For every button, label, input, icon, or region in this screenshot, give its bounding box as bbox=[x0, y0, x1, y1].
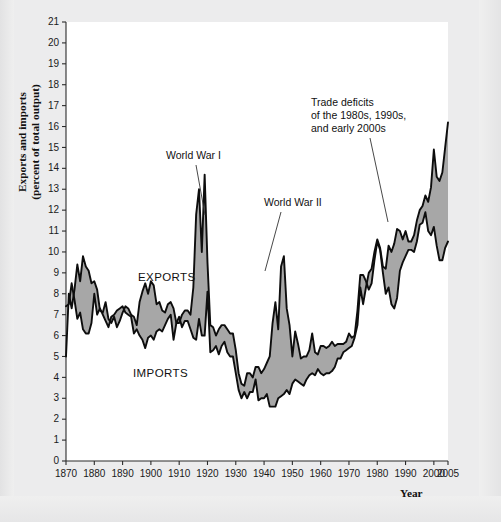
y-tick-label: 11 bbox=[49, 225, 60, 236]
y-tick-label: 2 bbox=[53, 413, 59, 424]
y-tick-label: 1 bbox=[53, 434, 59, 445]
y-tick-label: 21 bbox=[48, 16, 60, 27]
data-group bbox=[66, 122, 448, 406]
y-tick-label: 4 bbox=[53, 372, 59, 383]
x-tick-label: 1880 bbox=[83, 468, 106, 479]
y-tick-label: 12 bbox=[48, 204, 60, 215]
leader-trade-deficits bbox=[370, 138, 388, 222]
x-tick-label: 1910 bbox=[168, 468, 191, 479]
x-tick-label: 1980 bbox=[366, 468, 389, 479]
annotation-trade-deficits-line2: of the 1980s, 1990s, bbox=[311, 109, 406, 121]
y-tick-label: 15 bbox=[48, 142, 60, 153]
x-tick-label: 1930 bbox=[225, 468, 248, 479]
y-tick-label: 17 bbox=[48, 100, 60, 111]
x-tick-label: 1900 bbox=[140, 468, 163, 479]
y-tick-label: 19 bbox=[48, 58, 60, 69]
annotation-world-war-i: World War I bbox=[166, 149, 221, 161]
y-tick-label: 7 bbox=[53, 309, 59, 320]
y-tick-label: 16 bbox=[48, 121, 60, 132]
x-tick-label: 1990 bbox=[394, 468, 417, 479]
y-tick-label: 13 bbox=[48, 183, 60, 194]
y-tick-label: 5 bbox=[53, 351, 59, 362]
x-tick-label: 1970 bbox=[338, 468, 361, 479]
x-tick-label: 1960 bbox=[310, 468, 333, 479]
y-tick-label: 14 bbox=[48, 162, 60, 173]
x-tick-label: 1950 bbox=[281, 468, 304, 479]
chart-canvas: 0123456789101112131415161718192021187018… bbox=[0, 0, 501, 522]
y-tick-label: 20 bbox=[48, 37, 60, 48]
x-tick-label: 2005 bbox=[437, 468, 460, 479]
exports-series-label: EXPORTS bbox=[138, 271, 196, 283]
annotation-world-war-ii: World War II bbox=[264, 196, 322, 208]
y-tick-label: 18 bbox=[48, 79, 60, 90]
exports-imports-band bbox=[66, 122, 448, 406]
x-tick-label: 1920 bbox=[196, 468, 219, 479]
annotation-trade-deficits-line3: and early 2000s bbox=[311, 122, 386, 134]
x-tick-label: 1940 bbox=[253, 468, 276, 479]
y-tick-label: 6 bbox=[53, 330, 59, 341]
x-tick-label: 1870 bbox=[55, 468, 78, 479]
chart-page: Exports and imports (percent of total ou… bbox=[0, 0, 501, 522]
leader-world-war-ii bbox=[265, 212, 281, 271]
y-tick-label: 10 bbox=[48, 246, 60, 257]
y-tick-label: 0 bbox=[53, 455, 59, 466]
imports-series-label: IMPORTS bbox=[133, 367, 188, 379]
y-tick-label: 3 bbox=[53, 392, 59, 403]
y-tick-label: 8 bbox=[53, 288, 59, 299]
x-tick-label: 1890 bbox=[111, 468, 134, 479]
annotation-trade-deficits-line1: Trade deficits bbox=[311, 96, 374, 108]
y-tick-label: 9 bbox=[53, 267, 59, 278]
